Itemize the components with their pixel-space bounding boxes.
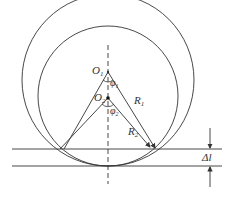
label-phi1: φ1 bbox=[110, 77, 119, 89]
label-phi2: φ2 bbox=[110, 105, 119, 117]
label-r1: R1 bbox=[133, 94, 144, 108]
label-delta-l: Δl bbox=[201, 151, 212, 163]
r2-left-ray bbox=[60, 98, 108, 149]
label-r2: R2 bbox=[127, 125, 139, 139]
o2-point bbox=[106, 96, 110, 100]
o1-point bbox=[107, 71, 109, 73]
label-o2: O2 bbox=[94, 91, 106, 105]
label-o1: O1 bbox=[92, 64, 103, 78]
circle-contact-diagram: O1 φ1 O2 φ2 R1 R2 Δl bbox=[0, 0, 234, 200]
